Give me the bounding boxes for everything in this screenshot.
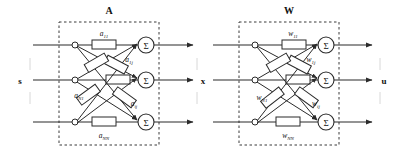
label-wNN-sub: NN [286,136,294,141]
resistor-wN1 [266,53,290,72]
output-signal-label: u [381,76,386,86]
svg-text:a1j: a1j [125,55,133,65]
svg-text:aNN: aNN [99,131,110,141]
label-aN1-sub: N1 [77,96,84,101]
block-a-summation-nodes: Σ Σ Σ [138,37,154,130]
label-wN1-sub: N1 [261,98,268,103]
sum-symbol-w-row2: Σ [323,76,328,86]
label-aij-sub: ij [134,104,137,109]
svg-text:a11: a11 [100,29,108,39]
sum-symbol-a-row1: Σ [143,41,148,51]
svg-text:w11: w11 [288,29,298,39]
label-w11-sub: 11 [293,34,298,39]
middle-signal-label: x [201,76,206,86]
neural-network-block-diagram: Σ Σ Σ a11 a1j aN1 aij aNN [0,0,394,159]
tap-node-a-row3 [72,119,78,125]
block-a-inline-resistors [92,40,130,126]
svg-text:w1j: w1j [307,55,317,65]
label-a11-sub: 11 [104,34,109,39]
label-w1j-sub: 1j [312,60,317,65]
block-a-title: A [105,5,113,16]
block-w-tap-nodes [252,42,258,125]
resistor-aNN [92,117,116,126]
diagram-canvas: Σ Σ Σ a11 a1j aN1 aij aNN [0,0,394,159]
svg-text:wNN: wNN [282,131,294,141]
block-w-inline-resistors [276,40,310,126]
sum-symbol-a-row3: Σ [143,118,148,128]
input-signal-label: s [18,76,22,86]
block-w-title: W [284,5,294,16]
resistor-a11 [92,40,116,49]
sum-symbol-w-row1: Σ [323,41,328,51]
sum-symbol-a-row2: Σ [143,76,148,86]
label-wij-sub: ij [317,104,320,109]
label-a1j-sub: 1j [129,60,134,65]
svg-text:wN1: wN1 [257,93,268,103]
label-aNN-sub: NN [102,136,110,141]
resistor-w11 [282,40,306,49]
resistor-a-cross-lower-left [76,84,100,105]
resistor-wNN [276,117,300,126]
svg-text:aN1: aN1 [74,91,84,101]
block-w-summation-nodes: Σ Σ Σ [318,37,334,130]
svg-text:wij: wij [312,99,320,109]
sum-symbol-w-row3: Σ [323,118,328,128]
tap-node-w-row3 [252,119,258,125]
block-a-tap-nodes [72,42,78,125]
